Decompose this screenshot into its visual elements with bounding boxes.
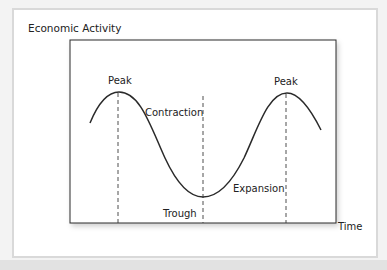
peak-2-label: Peak: [274, 77, 298, 87]
peak-1-label: Peak: [108, 76, 132, 86]
trough-label: Trough: [163, 209, 197, 219]
contraction-label: Contraction: [145, 108, 203, 118]
x-axis-label: Time: [338, 222, 362, 232]
expansion-label: Expansion: [233, 184, 285, 194]
cycle-diagram: [0, 0, 387, 270]
business-cycle-figure: Economic Activity Peak Contraction Troug…: [0, 0, 387, 270]
